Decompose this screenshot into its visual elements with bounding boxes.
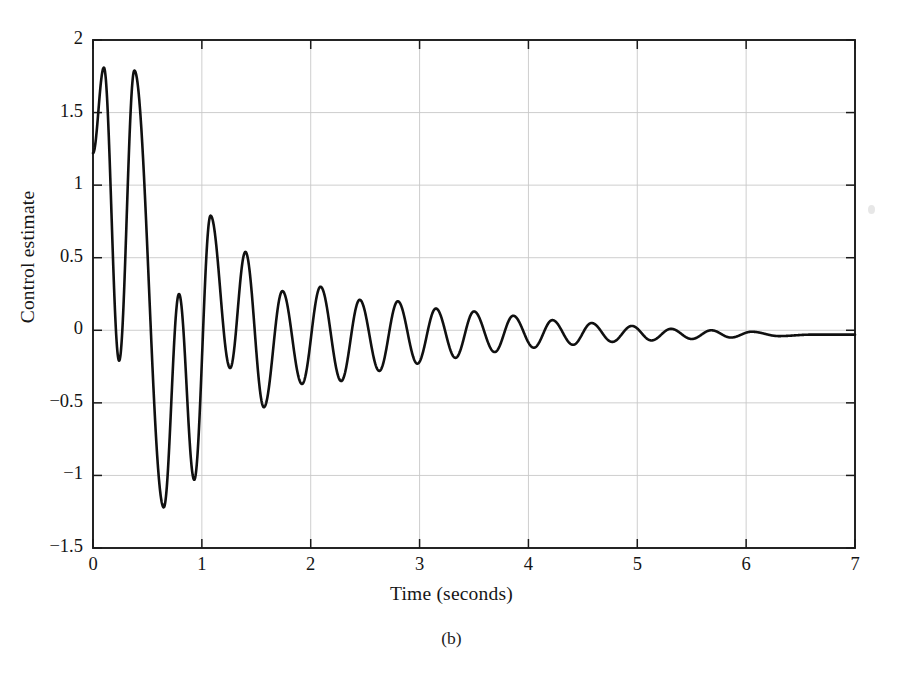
x-tick-label: 0 — [68, 554, 118, 575]
chart-canvas — [0, 0, 903, 681]
figure-panel: Control estimate Time (seconds) (b) −1.5… — [0, 0, 903, 681]
y-tick-label: −0.5 — [31, 391, 83, 412]
y-tick-label: −1 — [31, 463, 83, 484]
x-tick-label: 1 — [177, 554, 227, 575]
y-tick-label: 2 — [31, 28, 83, 49]
x-tick-label: 7 — [830, 554, 880, 575]
y-tick-label: 1 — [31, 173, 83, 194]
y-tick-label: 0.5 — [31, 246, 83, 267]
axis-frame — [93, 40, 855, 548]
y-tick-label: 0 — [31, 318, 83, 339]
series-line-control-estimate — [93, 68, 855, 508]
x-tick-label: 2 — [286, 554, 336, 575]
x-tick-label: 3 — [395, 554, 445, 575]
x-tick-label: 6 — [721, 554, 771, 575]
x-tick-label: 5 — [612, 554, 662, 575]
x-tick-label: 4 — [503, 554, 553, 575]
y-tick-label: 1.5 — [31, 101, 83, 122]
